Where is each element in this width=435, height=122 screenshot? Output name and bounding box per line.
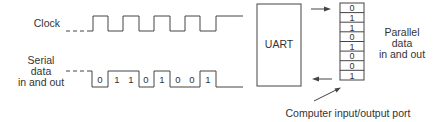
register-bit: 0: [349, 51, 354, 61]
register-bit: 1: [349, 13, 354, 23]
parallel-label-line3: in and out: [379, 48, 425, 60]
serial-bit: 0: [97, 74, 102, 85]
register-bit: 1: [349, 42, 354, 52]
clock-waveform: [66, 16, 243, 31]
serial-bit: 0: [189, 74, 194, 85]
serial-bit: 1: [128, 74, 133, 85]
port-pointer-arrow-icon: [314, 88, 341, 102]
right-arrow-icon: [311, 7, 331, 12]
serial-waveform: [66, 71, 243, 87]
port-label: Computer input/output port: [286, 107, 411, 119]
register-bit: 1: [349, 23, 354, 33]
register-bit: 0: [349, 32, 354, 42]
serial-bit: 1: [159, 74, 164, 85]
register-bit: 1: [349, 71, 354, 81]
register-bit: 0: [349, 61, 354, 71]
parallel-register: 0 1 1 0 1 0 0 1: [340, 3, 364, 81]
serial-label-line3: in and out: [18, 76, 64, 88]
uart-label: UART: [265, 38, 294, 50]
clock-label: Clock: [34, 17, 61, 29]
register-bit: 0: [349, 3, 354, 13]
serial-bit: 1: [205, 74, 210, 85]
serial-bit: 0: [175, 74, 180, 85]
serial-bit: 1: [114, 74, 119, 85]
left-arrow-icon: [312, 77, 332, 82]
serial-bit: 0: [143, 74, 148, 85]
uart-diagram: Clock Serial data in and out 0 1 1 0 1 0…: [0, 0, 435, 122]
